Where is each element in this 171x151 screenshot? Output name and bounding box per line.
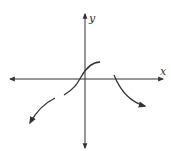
function-graph: x y <box>0 0 171 151</box>
y-axis-label: y <box>88 12 96 25</box>
x-axis-label: x <box>160 65 167 78</box>
curve-right-branch <box>114 75 145 106</box>
curve-left-branch <box>30 98 55 123</box>
